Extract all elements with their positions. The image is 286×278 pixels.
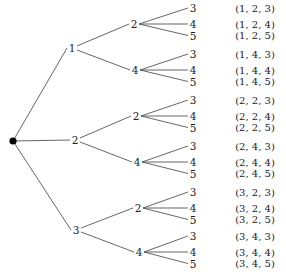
node-level2: 4 xyxy=(132,64,139,76)
node-level1: 1 xyxy=(69,42,76,54)
edge-level1-to-level2 xyxy=(77,24,129,46)
edge-level2-to-leaf xyxy=(143,192,188,208)
outcome-tuple: (1, 2, 5) xyxy=(235,30,275,41)
node-leaf: 5 xyxy=(190,30,197,42)
node-leaf: 3 xyxy=(190,94,197,106)
edge-level2-to-leaf xyxy=(142,146,188,162)
edge-level2-to-leaf xyxy=(143,208,188,220)
edge-level1-to-level2 xyxy=(77,50,130,70)
outcome-tuple: (2, 4, 4) xyxy=(235,157,275,168)
outcome-tuple: (1, 4, 5) xyxy=(235,76,275,87)
root-node xyxy=(9,137,16,144)
node-leaf: 3 xyxy=(190,186,197,198)
edge-level2-to-leaf xyxy=(144,252,188,264)
edge-level2-to-leaf xyxy=(142,162,188,174)
edge-level2-to-leaf xyxy=(141,116,188,128)
outcome-tuple: (3, 4, 3) xyxy=(235,231,275,242)
node-leaf: 4 xyxy=(190,18,197,30)
outcome-tuple: (2, 4, 5) xyxy=(235,168,275,179)
outcome-tuple: (2, 2, 4) xyxy=(235,111,275,122)
node-level2: 4 xyxy=(134,156,141,168)
edge-level2-to-leaf xyxy=(139,8,188,24)
outcome-tuple: (3, 2, 4) xyxy=(235,203,275,214)
outcome-tuple: (3, 2, 5) xyxy=(235,214,275,225)
edge-level1-to-level2 xyxy=(81,208,133,228)
node-leaf: 5 xyxy=(190,168,197,180)
edge-level1-to-level2 xyxy=(81,232,134,252)
edge-level2-to-leaf xyxy=(140,70,188,82)
node-level2: 2 xyxy=(131,18,138,30)
outcome-tuple: (2, 2, 3) xyxy=(235,95,275,106)
node-leaf: 3 xyxy=(190,48,197,60)
edge-root-to-1 xyxy=(13,48,67,141)
tree-diagram: 123(1, 2, 3)4(1, 2, 4)5(1, 2, 5)43(1, 4,… xyxy=(0,0,286,278)
node-leaf: 3 xyxy=(190,2,197,14)
node-level2: 2 xyxy=(135,202,142,214)
node-level2: 2 xyxy=(133,110,140,122)
node-leaf: 4 xyxy=(190,156,197,168)
node-leaf: 5 xyxy=(190,258,197,270)
outcome-tuple: (1, 2, 3) xyxy=(235,3,275,14)
edge-root-to-3 xyxy=(13,141,71,230)
node-leaf: 4 xyxy=(190,202,197,214)
outcome-tuple: (2, 4, 3) xyxy=(235,141,275,152)
node-level1: 2 xyxy=(72,134,79,146)
edge-level1-to-level2 xyxy=(80,142,132,162)
edge-level1-to-level2 xyxy=(80,116,131,138)
node-leaf: 5 xyxy=(190,122,197,134)
outcome-tuple: (1, 4, 3) xyxy=(235,49,275,60)
edge-level2-to-leaf xyxy=(141,100,188,116)
node-leaf: 3 xyxy=(190,140,197,152)
edge-level2-to-leaf xyxy=(140,54,188,70)
node-leaf: 5 xyxy=(190,76,197,88)
outcome-tuple: (1, 2, 4) xyxy=(235,19,275,30)
outcome-tuple: (3, 4, 4) xyxy=(235,247,275,258)
outcome-tuple: (2, 2, 5) xyxy=(235,122,275,133)
outcome-tuple: (1, 4, 4) xyxy=(235,65,275,76)
node-leaf: 5 xyxy=(190,214,197,226)
node-leaf: 4 xyxy=(190,110,197,122)
outcome-tuple: (3, 4, 5) xyxy=(235,258,275,269)
edge-root-to-2 xyxy=(13,140,70,141)
edge-level2-to-leaf xyxy=(144,236,188,252)
outcome-tuple: (3, 2, 3) xyxy=(235,187,275,198)
node-leaf: 4 xyxy=(190,64,197,76)
edge-level2-to-leaf xyxy=(139,24,188,36)
node-level1: 3 xyxy=(73,224,80,236)
node-leaf: 3 xyxy=(190,230,197,242)
node-leaf: 4 xyxy=(190,246,197,258)
node-level2: 4 xyxy=(136,246,143,258)
